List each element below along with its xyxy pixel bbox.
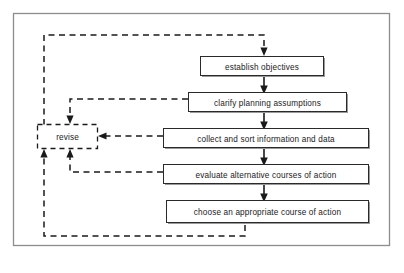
- clarify-planning-assumptions-label: clarify planning assumptions: [214, 99, 321, 108]
- diagram-canvas: establish objectives clarify planning as…: [0, 0, 404, 273]
- planning-flow-diagram: establish objectives clarify planning as…: [0, 0, 404, 273]
- node-choose-an-appropriate-course-of-action[interactable]: choose an appropriate course of action: [167, 201, 371, 225]
- collect-and-sort-label: collect and sort information and data: [197, 135, 335, 144]
- node-clarify-planning-assumptions[interactable]: clarify planning assumptions: [189, 93, 349, 114]
- evaluate-alternative-label: evaluate alternative courses of action: [196, 171, 337, 180]
- revise-label: revise: [56, 133, 79, 142]
- choose-appropriate-label: choose an appropriate course of action: [194, 208, 342, 217]
- arrowhead-clarify-into-revise: [66, 116, 73, 125]
- establish-objectives-label: establish objectives: [225, 63, 299, 72]
- node-collect-and-sort-information-and-data[interactable]: collect and sort information and data: [164, 129, 371, 150]
- arrowhead-into-establish-objectives: [260, 48, 267, 57]
- node-establish-objectives[interactable]: establish objectives: [201, 57, 326, 78]
- edge-evaluate-to-revise: [70, 157, 163, 172]
- arrowhead-choose-into-revise: [40, 149, 47, 158]
- arrowhead-evaluate-into-revise: [66, 149, 73, 158]
- arrowhead-collect-into-revise: [98, 132, 107, 139]
- node-revise[interactable]: revise: [38, 125, 98, 149]
- edge-clarify-to-revise: [70, 99, 188, 116]
- node-evaluate-alternative-courses-of-action[interactable]: evaluate alternative courses of action: [164, 165, 371, 186]
